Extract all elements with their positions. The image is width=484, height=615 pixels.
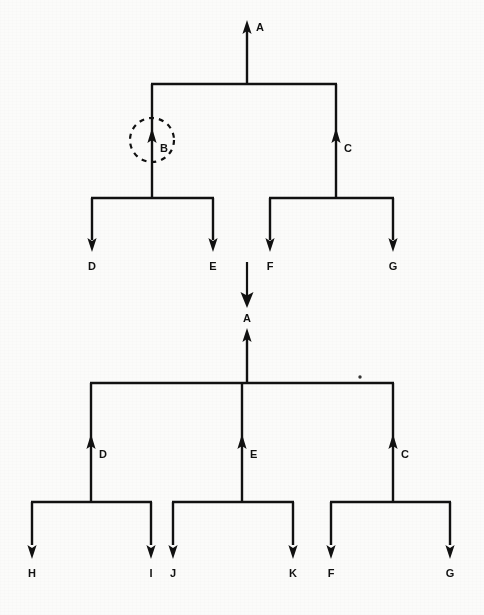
node-J-bottom[interactable]: J — [168, 502, 177, 579]
node-H-bottom[interactable]: H — [27, 502, 36, 579]
node-F-top[interactable]: F — [265, 198, 274, 272]
node-label-D-bottom: D — [99, 448, 107, 460]
arrowhead-down — [168, 545, 177, 559]
node-label-I-bottom: I — [149, 567, 152, 579]
node-label-E-top: E — [209, 260, 216, 272]
arrowhead-down — [208, 238, 217, 252]
node-A-top[interactable]: A — [242, 20, 264, 84]
node-label-H-bottom: H — [28, 567, 36, 579]
tree-after: A D E C — [27, 312, 454, 579]
tree-before: A B C D — [87, 20, 397, 272]
arrowhead-down — [27, 545, 36, 559]
arrowhead-down — [265, 238, 274, 252]
node-I-bottom[interactable]: I — [146, 502, 155, 579]
arrowhead-down — [87, 238, 96, 252]
node-label-F-bottom: F — [328, 567, 335, 579]
arrowhead-down — [288, 545, 297, 559]
node-label-C-top: C — [344, 142, 352, 154]
node-label-A-top: A — [256, 21, 264, 33]
node-label-F-top: F — [267, 260, 274, 272]
downward-transition-arrow — [241, 262, 254, 308]
node-label-K-bottom: K — [289, 567, 297, 579]
node-label-C-bottom: C — [401, 448, 409, 460]
node-label-A-bottom: A — [243, 312, 251, 324]
arrowhead-down — [146, 545, 155, 559]
node-F-bottom[interactable]: F — [326, 502, 335, 579]
tree-transformation-diagram: A B C D — [0, 0, 484, 615]
arrowhead-down — [445, 545, 454, 559]
node-K-bottom[interactable]: K — [288, 502, 297, 579]
node-label-G-bottom: G — [446, 567, 455, 579]
node-G-top[interactable]: G — [388, 198, 397, 272]
node-label-J-bottom: J — [170, 567, 176, 579]
node-label-B-top: B — [160, 142, 168, 154]
node-D-top[interactable]: D — [87, 198, 96, 272]
node-A-bottom[interactable] — [242, 328, 251, 383]
scan-speck — [358, 375, 361, 378]
node-label-E-bottom: E — [250, 448, 257, 460]
arrowhead-down — [326, 545, 335, 559]
arrowhead-down — [388, 238, 397, 252]
node-label-D-top: D — [88, 260, 96, 272]
node-E-top[interactable]: E — [208, 198, 217, 272]
node-label-G-top: G — [389, 260, 398, 272]
node-G-bottom[interactable]: G — [445, 502, 454, 579]
diagram-page: A B C D — [0, 0, 484, 615]
